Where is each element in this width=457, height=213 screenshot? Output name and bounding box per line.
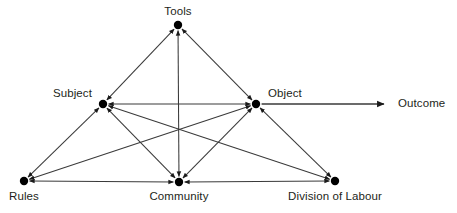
- node-dot-subject: [99, 100, 107, 108]
- node-dot-tools: [174, 21, 182, 29]
- node-dot-rules: [20, 177, 28, 185]
- node-label-rules: Rules: [9, 190, 39, 203]
- edge-tools-object: [182, 29, 252, 100]
- edge-community-division: [185, 181, 330, 182]
- node-label-subject: Subject: [53, 87, 92, 100]
- node-dot-division: [331, 177, 339, 185]
- node-label-tools: Tools: [164, 5, 191, 18]
- edge-object-division: [260, 108, 331, 177]
- activity-theory-diagram: ToolsSubjectObjectRulesCommunityDivision…: [0, 0, 457, 213]
- node-label-outcome: Outcome: [398, 97, 445, 110]
- node-label-object: Object: [268, 87, 302, 100]
- edge-subject-community: [107, 108, 175, 178]
- edge-rules-community: [30, 181, 174, 182]
- edge-layer: [28, 29, 384, 182]
- edge-subject-tools: [107, 29, 174, 100]
- diagram-canvas: [0, 0, 457, 213]
- edge-object-community: [183, 108, 252, 178]
- node-label-division: Division of Labour: [288, 190, 382, 203]
- edge-tools-community: [178, 31, 179, 177]
- node-dot-community: [175, 178, 183, 186]
- edge-subject-rules: [28, 108, 99, 177]
- node-dot-object: [252, 100, 260, 108]
- node-label-community: Community: [149, 190, 208, 203]
